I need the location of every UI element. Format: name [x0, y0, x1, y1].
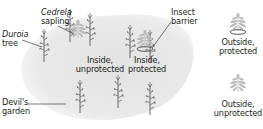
diagram-canvas: Duroia tree Cedrela sapling Insect barri…: [0, 0, 263, 129]
cedrela-label-line2: sapling: [41, 17, 72, 26]
treatment-line: protected: [124, 65, 170, 74]
treatment-outside-unprotected: Outside, unprotected: [210, 100, 263, 118]
devils-garden-label-line2: garden: [2, 107, 30, 116]
duroia-label-line2: tree: [2, 39, 28, 48]
treatment-inside-unprotected: Inside, unprotected: [72, 56, 128, 74]
duroia-label: Duroia tree: [2, 30, 28, 48]
cedrela-sapling-icon: [229, 13, 246, 31]
treatment-line: protected: [214, 47, 262, 56]
cedrela-label: Cedrela sapling: [41, 8, 72, 26]
treatment-line: unprotected: [210, 109, 263, 118]
treatment-line: unprotected: [72, 65, 128, 74]
treatment-outside-protected: Outside, protected: [214, 38, 262, 56]
treatment-inside-protected: Inside, protected: [124, 56, 170, 74]
devils-garden-label: Devil's garden: [2, 98, 30, 116]
insect-barrier-label-line2: barrier: [171, 17, 197, 26]
cedrela-sapling-icon: [229, 74, 246, 92]
insect-barrier-label: Insect barrier: [171, 8, 197, 26]
